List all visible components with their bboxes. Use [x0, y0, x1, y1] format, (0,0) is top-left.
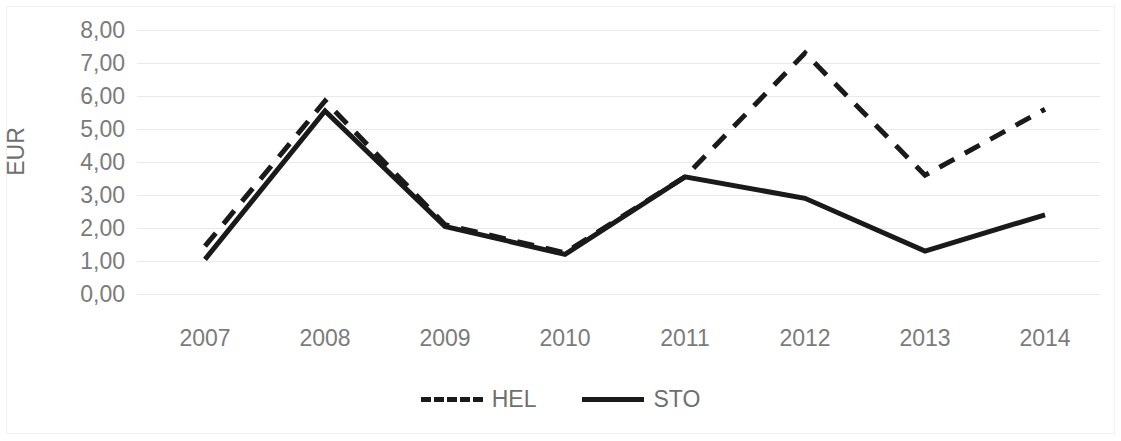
- series-line-hel: [205, 53, 1045, 253]
- y-axis-tick-label: 2,00: [55, 217, 125, 240]
- x-axis-tick-label: 2008: [270, 325, 380, 352]
- legend-swatch-solid-line-icon: [582, 397, 644, 402]
- y-axis-tick-label: 7,00: [55, 52, 125, 75]
- y-axis-tick-label: 5,00: [55, 118, 125, 141]
- y-axis-tick-labels: 8,007,006,005,004,003,002,001,000,00: [55, 30, 125, 294]
- series-line-sto: [205, 111, 1045, 260]
- y-axis-title: EUR: [3, 127, 30, 176]
- x-axis-tick-label: 2007: [150, 325, 260, 352]
- legend-swatch-dashed-line-icon: [421, 397, 483, 402]
- x-axis-tick-labels: 20072008200920102011201220132014: [137, 325, 1100, 355]
- y-axis-tick-label: 0,00: [55, 283, 125, 306]
- plot-area: [137, 30, 1100, 294]
- series-layer: [137, 30, 1100, 294]
- x-axis-tick-label: 2014: [990, 325, 1100, 352]
- y-axis-tick-label: 6,00: [55, 85, 125, 108]
- x-axis-tick-label: 2011: [630, 325, 740, 352]
- x-axis-tick-label: 2012: [750, 325, 860, 352]
- line-chart: EUR 8,007,006,005,004,003,002,001,000,00…: [0, 0, 1121, 441]
- legend-item-hel[interactable]: HEL: [421, 388, 537, 411]
- y-axis-tick-label: 8,00: [55, 19, 125, 42]
- gridline: [137, 294, 1100, 295]
- y-axis-tick-label: 1,00: [55, 250, 125, 273]
- chart-legend: HELSTO: [0, 388, 1121, 411]
- x-axis-tick-label: 2013: [870, 325, 980, 352]
- y-axis-tick-label: 3,00: [55, 184, 125, 207]
- x-axis-tick-label: 2010: [510, 325, 620, 352]
- y-axis-tick-label: 4,00: [55, 151, 125, 174]
- x-axis-tick-label: 2009: [390, 325, 500, 352]
- legend-label: STO: [653, 388, 700, 411]
- legend-label: HEL: [492, 388, 537, 411]
- legend-item-sto[interactable]: STO: [582, 388, 700, 411]
